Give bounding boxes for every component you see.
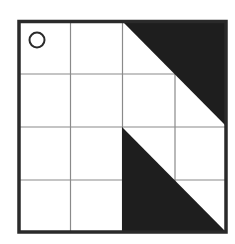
- grid-diagram: [0, 0, 235, 244]
